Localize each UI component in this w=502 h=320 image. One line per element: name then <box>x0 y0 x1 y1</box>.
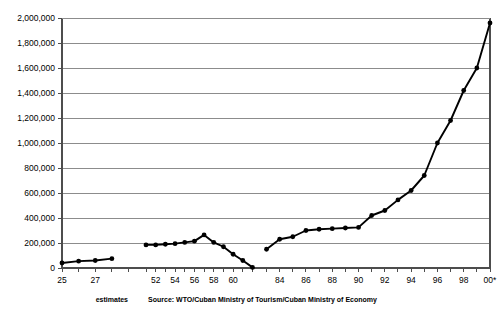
x-tick-label: 52 <box>151 275 161 285</box>
data-point-marker <box>202 232 207 237</box>
chart-container: 0200,000400,000600,000800,0001,000,0001,… <box>0 0 502 320</box>
data-point-marker <box>144 242 149 247</box>
y-tick-label: 200,000 <box>24 238 55 248</box>
data-point-marker <box>182 240 187 245</box>
x-tick-label: 58 <box>209 275 219 285</box>
data-point-marker <box>277 237 282 242</box>
x-tick-label: 90 <box>354 275 364 285</box>
y-tick-label: 0 <box>50 263 55 273</box>
x-tick-label: 86 <box>301 275 311 285</box>
chart-background <box>0 0 502 320</box>
y-tick-label: 1,400,000 <box>17 88 55 98</box>
x-tick-label: 56 <box>190 275 200 285</box>
data-point-marker <box>435 141 440 146</box>
x-tick-label: 54 <box>170 275 180 285</box>
data-point-marker <box>76 259 81 264</box>
data-point-marker <box>461 88 466 93</box>
estimates-note: estimates <box>96 296 128 303</box>
data-point-marker <box>422 173 427 178</box>
x-tick-label: 92 <box>380 275 390 285</box>
data-point-marker <box>211 240 216 245</box>
data-point-marker <box>488 21 493 26</box>
y-tick-label: 800,000 <box>24 163 55 173</box>
y-tick-label: 1,800,000 <box>17 38 55 48</box>
y-tick-label: 1,200,000 <box>17 113 55 123</box>
data-point-marker <box>173 241 178 246</box>
data-point-marker <box>250 265 255 270</box>
data-point-marker <box>264 247 269 252</box>
source-note: Source: WTO/Cuban Ministry of Tourism/Cu… <box>148 296 377 304</box>
data-point-marker <box>93 258 98 263</box>
x-tick-label: 25 <box>57 275 67 285</box>
y-tick-label: 2,000,000 <box>17 13 55 23</box>
x-tick-label: 88 <box>328 275 338 285</box>
x-tick-label: 84 <box>275 275 285 285</box>
x-tick-label: 96 <box>433 275 443 285</box>
data-point-marker <box>409 188 414 193</box>
x-tick-label: 00* <box>484 275 497 285</box>
data-point-marker <box>153 242 158 247</box>
data-point-marker <box>369 213 374 218</box>
data-point-marker <box>221 244 226 249</box>
data-point-marker <box>317 227 322 232</box>
data-point-marker <box>448 118 453 123</box>
data-point-marker <box>163 242 168 247</box>
data-point-marker <box>382 208 387 213</box>
data-point-marker <box>396 197 401 202</box>
data-point-marker <box>343 226 348 231</box>
y-tick-label: 400,000 <box>24 213 55 223</box>
x-tick-label: 27 <box>91 275 101 285</box>
x-tick-label: 60 <box>228 275 238 285</box>
data-point-marker <box>474 66 479 71</box>
data-point-marker <box>109 256 114 261</box>
data-point-marker <box>60 261 65 266</box>
data-point-marker <box>231 252 236 257</box>
data-point-marker <box>304 228 309 233</box>
line-chart: 0200,000400,000600,000800,0001,000,0001,… <box>0 0 502 320</box>
data-point-marker <box>192 239 197 244</box>
data-point-marker <box>290 234 295 239</box>
x-tick-label: 98 <box>459 275 469 285</box>
y-tick-label: 1,600,000 <box>17 63 55 73</box>
data-point-marker <box>240 258 245 263</box>
x-tick-label: 94 <box>406 275 416 285</box>
data-point-marker <box>356 225 361 230</box>
data-point-marker <box>330 226 335 231</box>
y-tick-label: 600,000 <box>24 188 55 198</box>
y-tick-label: 1,000,000 <box>17 138 55 148</box>
